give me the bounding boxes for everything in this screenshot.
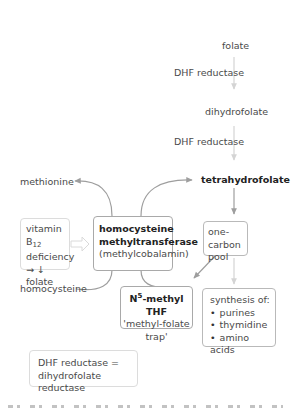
legend-line1: DHF reductase = [38,357,137,370]
arrow-to-thf [141,180,192,216]
b12-line2: deficiency [26,251,69,264]
methyl-thf-line3: trap' [121,331,192,344]
methyl-thf-title: N5-methyl THF [121,290,192,318]
b12-line3: → ↓ folate [26,264,69,289]
synthesis-heading: synthesis of: [210,294,275,307]
homocysteine-methyltransferase-box: homocysteine methyltransferase (methylco… [93,216,173,271]
down-arrow-icon: ↓ [37,264,45,275]
methyl-thf-line2: 'methyl-folate [121,318,192,331]
cut-off-caption [8,402,283,408]
enzyme-cofactor: (methylcobalamin) [99,248,172,261]
label-dhf-reductase-1: DHF reductase [174,67,244,79]
enzyme-line1: homocysteine [99,223,172,236]
one-carbon-line1: one-carbon [208,226,247,251]
vitamin-b12-deficiency-box: vitamin B12 deficiency → ↓ folate [20,218,70,270]
right-arrow-icon: → [26,264,34,275]
legend-box: DHF reductase = dihydrofolate reductase [29,350,138,387]
synthesis-item-purines: purines [210,307,275,320]
one-carbon-line2: pool [208,251,247,264]
b12-line1: vitamin B12 [26,223,69,251]
n5-methyl-thf-box: N5-methyl THF 'methyl-folate trap' [120,286,193,329]
synthesis-list: purines thymidine amino acids [210,307,275,357]
label-dhf-reductase-2: DHF reductase [174,136,244,148]
hollow-arrow-b12-to-enzyme [71,237,89,251]
node-methionine: methionine [20,176,74,188]
node-folate: folate [222,40,249,52]
enzyme-line2: methyltransferase [99,236,172,249]
arrow-to-methionine [75,181,112,216]
node-dihydrofolate: dihydrofolate [205,106,268,118]
legend-line2: dihydrofolate reductase [38,370,137,395]
synthesis-item-thymidine: thymidine [210,319,275,332]
node-tetrahydrofolate: tetrahydrofolate [201,174,290,186]
one-carbon-pool-box: one-carbon pool [203,221,248,256]
synthesis-box: synthesis of: purines thymidine amino ac… [202,288,276,347]
synthesis-item-amino-acids: amino acids [210,332,275,357]
